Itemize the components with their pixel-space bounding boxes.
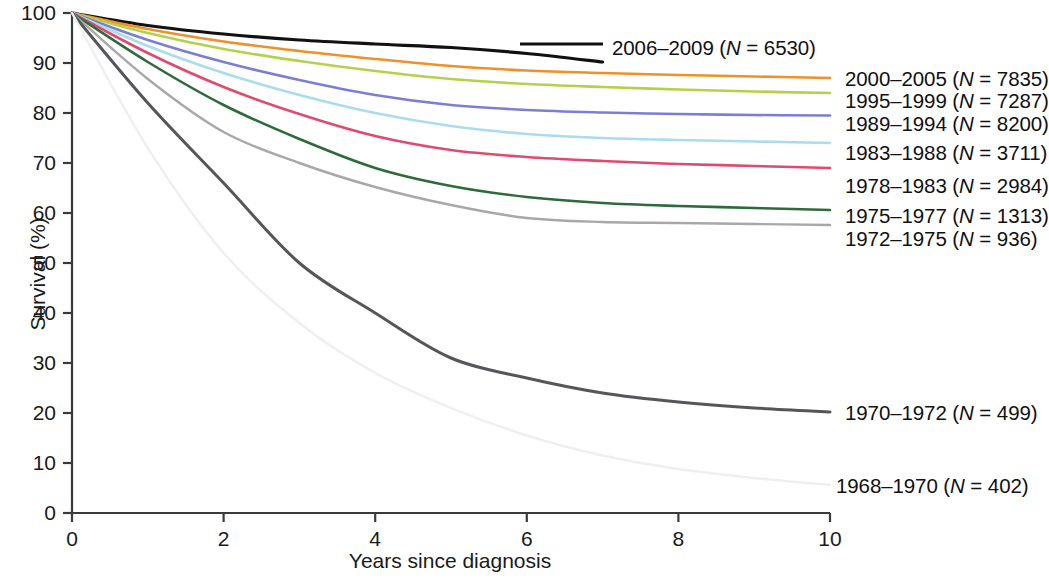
x-tick-label: 10 [818,527,841,551]
axis-lines [72,13,830,513]
y-tick-label: 80 [0,101,56,125]
x-axis-title: Years since diagnosis [0,549,900,573]
series-label-1968-1970: 1968–1970 (N = 402) [836,474,1028,498]
y-tick-label: 10 [0,451,56,475]
series-label-2006-2009: 2006–2009 (N = 6530) [612,36,816,60]
y-tick-label: 90 [0,51,56,75]
series-line-1989-1994 [72,13,830,116]
series-label-1978-1983: 1978–1983 (N = 2984) [845,174,1049,198]
series-label-1972-1975: 1972–1975 (N = 936) [845,227,1037,251]
series-label-1983-1988: 1983–1988 (N = 3711) [845,141,1047,165]
x-tick-label: 2 [218,527,230,551]
x-tick-label: 0 [66,527,78,551]
series-label-1970-1972: 1970–1972 (N = 499) [845,401,1037,425]
series-line-1970-1972 [72,13,830,412]
series-label-2000-2005: 2000–2005 (N = 7835) [845,67,1049,91]
y-tick-label: 0 [0,501,56,525]
y-tick-label: 20 [0,401,56,425]
x-tick-label: 6 [521,527,533,551]
series-paths [72,13,830,485]
y-axis-title: Survival (%) [26,174,50,374]
x-tick-label: 4 [369,527,381,551]
series-label-1975-1977: 1975–1977 (N = 1313) [845,204,1049,228]
x-tick-label: 8 [673,527,685,551]
y-tick-label: 70 [0,151,56,175]
y-tick-label: 100 [0,1,56,25]
series-label-1989-1994: 1989–1994 (N = 8200) [845,112,1049,136]
series-label-1995-1999: 1995–1999 (N = 7287) [845,89,1049,113]
